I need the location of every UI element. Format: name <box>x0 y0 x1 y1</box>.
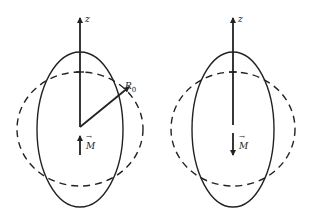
right-z-label: z <box>237 14 243 24</box>
right-figure: z → M <box>171 14 295 207</box>
right-moment-label: M <box>238 141 249 151</box>
right-moment-vector-mark: → <box>239 133 245 141</box>
left-radius-label: R0 <box>124 81 136 94</box>
left-moment-label: M <box>85 141 96 151</box>
diagram-canvas: z R0 → M z → M <box>0 0 310 219</box>
left-z-label: z <box>84 14 90 24</box>
left-figure: z R0 → M <box>17 14 143 207</box>
left-moment-vector-mark: → <box>86 133 92 141</box>
